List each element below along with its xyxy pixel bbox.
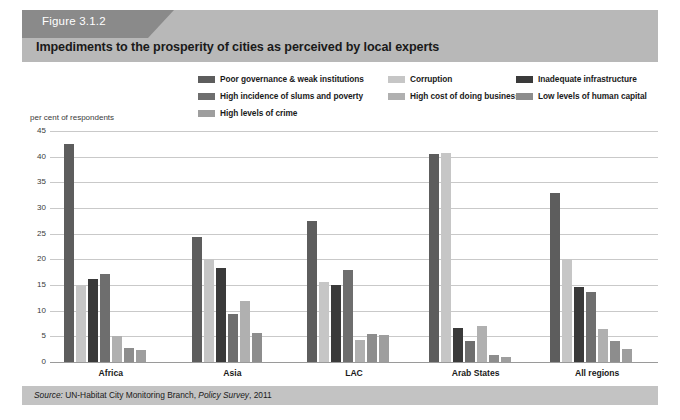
y-axis-label: per cent of respondents	[30, 113, 114, 122]
bar	[100, 274, 110, 362]
x-axis-group-label: LAC	[293, 368, 415, 378]
y-axis-tick-label: 25	[28, 230, 46, 238]
x-axis-group-label: Asia	[172, 368, 294, 378]
bar	[489, 355, 499, 362]
bar	[501, 357, 511, 362]
source-note: Source: UN-Habitat City Monitoring Branc…	[34, 390, 272, 400]
bar-group-bars	[64, 131, 148, 362]
bar	[586, 292, 596, 362]
bar	[136, 350, 146, 362]
y-axis-ticks: 454035302520151050	[26, 131, 46, 362]
bar	[550, 193, 560, 362]
bar-group-bars	[192, 131, 264, 362]
bar-group-bars	[307, 131, 391, 362]
bar	[574, 287, 584, 362]
source-prefix: Source:	[34, 390, 63, 400]
bar	[112, 336, 122, 362]
bar-group-bars	[429, 131, 513, 362]
x-axis-group-label: Arab States	[415, 368, 537, 378]
bar	[562, 259, 572, 362]
y-axis-tick-label: 15	[28, 281, 46, 289]
figure-footer-band: Source: UN-Habitat City Monitoring Branc…	[22, 386, 658, 405]
bar	[610, 341, 620, 362]
bar	[441, 153, 451, 362]
bar	[192, 237, 202, 362]
y-axis-tick-label: 0	[28, 358, 46, 366]
bar	[453, 328, 463, 362]
bar	[379, 335, 389, 362]
bar	[465, 341, 475, 362]
bar	[307, 221, 317, 362]
y-axis-tick-label: 30	[28, 204, 46, 212]
bar	[477, 326, 487, 362]
bar	[622, 349, 632, 362]
bar	[367, 334, 377, 362]
bar	[355, 340, 365, 362]
bar	[64, 144, 74, 362]
bar	[429, 154, 439, 362]
gridline	[50, 362, 658, 363]
bar	[216, 268, 226, 362]
bar	[252, 333, 262, 362]
bar	[343, 270, 353, 362]
bar	[88, 279, 98, 362]
source-italic: Policy Survey	[198, 390, 249, 400]
figure-container: Figure 3.1.2 Impediments to the prosperi…	[0, 0, 680, 420]
bar	[204, 259, 214, 362]
bar	[598, 329, 608, 362]
x-axis-group-label: Africa	[50, 368, 172, 378]
bar	[124, 348, 134, 362]
y-axis-tick-label: 20	[28, 255, 46, 263]
bar	[319, 282, 329, 362]
y-axis-tick-label: 10	[28, 307, 46, 315]
x-axis-group-label: All regions	[536, 368, 658, 378]
plot-area	[50, 131, 658, 362]
chart-plot-wrapper: per cent of respondents 4540353025201510…	[0, 0, 680, 420]
bar	[240, 301, 250, 362]
y-axis-tick-label: 40	[28, 153, 46, 161]
source-suffix: , 2011	[249, 390, 272, 400]
bar	[76, 285, 86, 363]
y-axis-tick-label: 35	[28, 178, 46, 186]
bar-group-bars	[550, 131, 634, 362]
y-axis-tick-label: 5	[28, 332, 46, 340]
bar	[228, 314, 238, 362]
y-axis-tick-label: 45	[28, 127, 46, 135]
bar	[331, 285, 341, 362]
source-body: UN-Habitat City Monitoring Branch,	[63, 390, 198, 400]
